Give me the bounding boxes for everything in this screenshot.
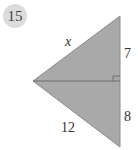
label-12: 12 xyxy=(61,120,75,135)
label-x: x xyxy=(64,34,72,49)
label-8: 8 xyxy=(124,109,131,124)
triangle-diagram: x 7 8 12 xyxy=(0,0,138,150)
label-7: 7 xyxy=(124,46,131,61)
